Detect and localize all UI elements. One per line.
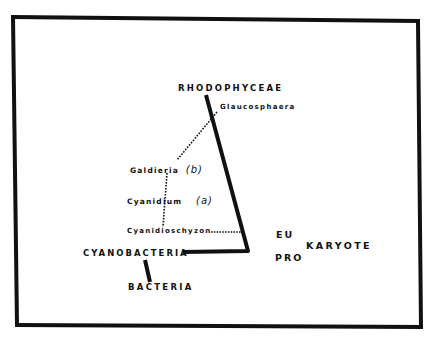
frame-left: [13, 17, 17, 325]
label-bacteria: BACTERIA: [128, 283, 194, 292]
label-cyanobacteria: CYANOBACTERIA: [83, 249, 189, 258]
frame-right: [418, 21, 421, 327]
galdieria-mark: (b): [186, 164, 203, 175]
label-eu: EU: [276, 230, 294, 240]
cyanidium-mark: (a): [196, 195, 213, 206]
label-galdieria: Galdieria (b): [130, 165, 203, 175]
label-glaucosphaera: Glaucosphaera: [220, 104, 296, 111]
label-pro: PRO: [275, 253, 303, 263]
cyanidium-name: Cyanidium: [127, 197, 182, 206]
galdieria-name: Galdieria: [130, 166, 179, 175]
label-karyote: KARYOTE: [306, 241, 372, 251]
frame-top: [13, 17, 418, 21]
frame-bottom: [17, 325, 421, 327]
label-rhodophyceae: RHODOPHYCEAE: [178, 84, 283, 93]
frame-border: [13, 17, 421, 327]
diagram-lines: [0, 0, 433, 339]
label-cyanidioschyzon: Cyanidioschyzon: [127, 228, 212, 235]
diagram-canvas: RHODOPHYCEAE Glaucosphaera Galdieria (b)…: [0, 0, 433, 339]
glaucosphaera-galdieria-dotted: [177, 112, 217, 160]
label-cyanidium: Cyanidium (a): [127, 196, 213, 206]
bacteria-branch-line: [145, 260, 150, 282]
